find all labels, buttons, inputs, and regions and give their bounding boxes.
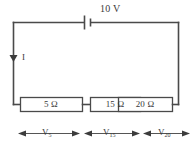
battery-voltage-label: 10 V — [100, 4, 120, 14]
voltage-drop-label-3: V20 — [158, 128, 171, 137]
dim-arrow-left-v5 — [18, 131, 26, 137]
resistor-label-3: 20 Ω — [118, 100, 172, 109]
voltage-drop-subscript-1: 5 — [49, 132, 52, 138]
circuit-diagram: 10 V I 5 Ω 15 Ω 20 Ω V5 V15 V20 — [0, 0, 193, 146]
voltage-drop-symbol-3: V — [158, 127, 165, 137]
voltage-drop-label-2: V15 — [103, 128, 116, 137]
current-label: I — [22, 53, 25, 62]
dim-arrow-right-v15 — [132, 131, 140, 137]
voltage-drop-symbol-1: V — [42, 127, 49, 137]
voltage-drop-subscript-2: 15 — [110, 132, 116, 138]
circuit-schematic-svg — [0, 0, 193, 146]
current-direction-arrow-icon — [10, 55, 18, 62]
dim-arrow-left-v20 — [143, 131, 151, 137]
dim-arrow-left-v15 — [84, 131, 92, 137]
voltage-drop-subscript-3: 20 — [165, 132, 171, 138]
resistor-label-1: 5 Ω — [20, 100, 82, 109]
dim-arrow-right-v20 — [182, 131, 190, 137]
voltage-drop-label-1: V5 — [42, 128, 52, 137]
voltage-drop-symbol-2: V — [103, 127, 110, 137]
dim-arrow-right-v5 — [72, 131, 80, 137]
